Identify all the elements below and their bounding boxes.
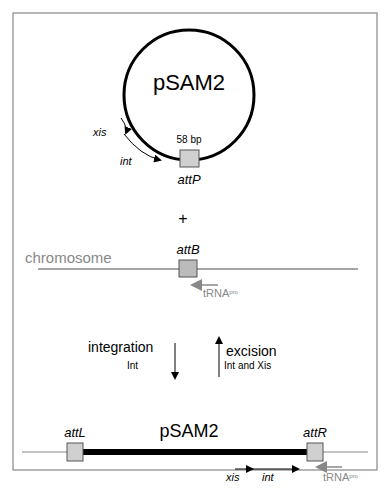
integration-diagram: pSAM2 58 bp attP xis int + chromosome at… xyxy=(0,0,389,501)
excision-label: excision xyxy=(226,343,277,359)
attr-label: attR xyxy=(303,425,327,440)
excision-enzyme: Int and Xis xyxy=(224,360,271,371)
integrated-trna-label: tRNApro xyxy=(323,471,359,483)
integrated-plasmid-name: pSAM2 xyxy=(159,421,218,441)
xis-arrow xyxy=(121,118,126,133)
integrated-int-label: int xyxy=(262,471,275,483)
integration-label: integration xyxy=(88,339,153,355)
attp-box xyxy=(180,150,199,167)
xis-label: xis xyxy=(92,126,107,138)
attb-label: attB xyxy=(176,242,199,257)
trna-label: tRNApro xyxy=(203,287,239,299)
plasmid-name: pSAM2 xyxy=(153,70,225,95)
attp-label: attP xyxy=(177,172,200,187)
diagram-root: pSAM2 58 bp attP xis int + chromosome at… xyxy=(0,0,389,501)
integration-enzyme: Int xyxy=(127,360,138,371)
integrated-xis-label: xis xyxy=(225,471,240,483)
plus-sign: + xyxy=(178,210,187,227)
site-size-label: 58 bp xyxy=(176,134,201,145)
attl-label: attL xyxy=(64,425,86,440)
attb-box xyxy=(179,260,197,277)
attl-box xyxy=(67,443,83,461)
attr-box xyxy=(307,443,323,461)
int-label: int xyxy=(120,155,133,167)
chromosome-label: chromosome xyxy=(25,249,112,266)
